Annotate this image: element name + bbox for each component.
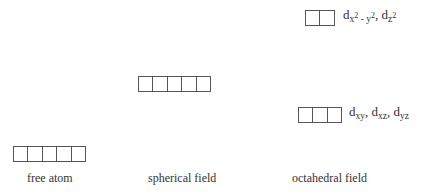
orbital-box [197,77,210,91]
orbital-box [14,147,28,161]
sub-yz: yz [400,111,409,121]
orbital-box [72,147,85,161]
sup-2: 2 [392,11,396,20]
sub-xy: xy [356,111,366,121]
orbital-box [57,147,71,161]
caption-free-atom: free atom [27,171,73,186]
comma-d: , d [387,104,400,119]
eg-label: dx2 - y2, dz2 [343,7,396,24]
orbital-box [28,147,42,161]
caption-spherical-field: spherical field [148,171,216,186]
caption-octahedral-field: octahedral field [292,171,367,186]
orbital-box [313,108,327,122]
orbital-box [306,11,320,25]
comma-d: , d [375,7,388,22]
orbital-box [182,77,196,91]
minus: - [358,14,366,24]
orbital-box [168,77,182,91]
t2g-orbitals [298,107,342,123]
orbital-box [299,108,313,122]
spherical-field-d-orbitals [138,76,211,92]
orbital-box [139,77,153,91]
eg-orbitals [305,10,335,26]
t2g-label: dxy, dxz, dyz [349,104,409,121]
sub-xz: xz [378,111,387,121]
orbital-box [153,77,167,91]
free-atom-d-orbitals [13,146,86,162]
comma-d: , d [365,104,378,119]
orbital-box [43,147,57,161]
orbital-box [328,108,341,122]
orbital-box [320,11,333,25]
